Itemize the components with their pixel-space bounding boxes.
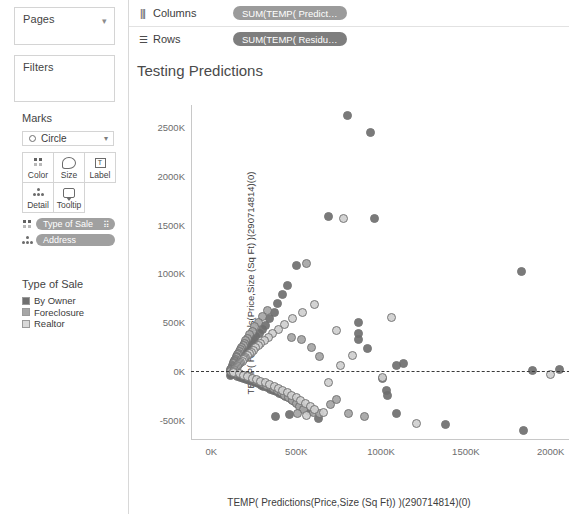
data-point[interactable]: [360, 412, 369, 421]
left-panel: Pages ▾ Filters Marks Circle ▾ Color: [0, 0, 129, 514]
columns-shelf-label: Columns: [153, 7, 207, 19]
data-point[interactable]: [324, 212, 333, 221]
x-tick-label: 0K: [206, 446, 218, 457]
data-point[interactable]: [324, 378, 333, 387]
marks-detail-label: Detail: [27, 200, 49, 210]
data-point[interactable]: [378, 373, 387, 382]
legend-item[interactable]: Foreclosure: [22, 307, 84, 319]
marks-pill-address[interactable]: Address: [22, 234, 115, 246]
page-title: Testing Predictions: [137, 62, 263, 79]
data-point[interactable]: [332, 395, 341, 404]
data-point[interactable]: [273, 299, 282, 308]
x-axis-label: TEMP( Predictions(Price,Size (Sq Ft)) )(…: [129, 497, 569, 508]
columns-shelf[interactable]: ||| Columns SUM(TEMP( Predict…: [129, 0, 569, 27]
data-point[interactable]: [348, 351, 357, 360]
data-point[interactable]: [441, 420, 450, 429]
data-point[interactable]: [288, 314, 297, 323]
data-point[interactable]: [298, 308, 307, 317]
marks-card-title: Marks: [22, 112, 52, 124]
marks-label-label: Label: [90, 170, 111, 180]
data-point[interactable]: [293, 409, 302, 418]
filters-card-title: Filters: [23, 61, 54, 73]
data-point[interactable]: [310, 300, 319, 309]
y-tick-label: 1000K: [158, 268, 185, 279]
tableau-worksheet: Pages ▾ Filters Marks Circle ▾ Color: [0, 0, 569, 514]
data-point[interactable]: [354, 318, 363, 327]
pages-card[interactable]: Pages ▾: [14, 7, 115, 45]
data-point[interactable]: [370, 214, 379, 223]
data-point[interactable]: [278, 290, 287, 299]
legend-label: Realtor: [34, 318, 65, 329]
x-tick-label: 2000K: [537, 446, 564, 457]
pill-label[interactable]: Address: [36, 234, 115, 246]
marks-property-grid: Color Size T Label: [22, 152, 116, 213]
columns-icon: |||: [137, 8, 148, 19]
data-point[interactable]: [287, 333, 296, 342]
data-point[interactable]: [302, 411, 311, 420]
data-point[interactable]: [315, 352, 324, 361]
y-tick-label: 2500K: [158, 121, 185, 132]
marks-detail-button[interactable]: Detail: [22, 182, 54, 213]
legend-label: Foreclosure: [34, 307, 84, 318]
data-point[interactable]: [366, 128, 375, 137]
x-tick-label: 1500K: [452, 446, 479, 457]
data-point[interactable]: [517, 267, 526, 276]
data-point[interactable]: [319, 408, 328, 417]
data-point[interactable]: [343, 111, 352, 120]
legend-item[interactable]: Realtor: [22, 318, 84, 330]
mark-type-dropdown[interactable]: Circle ▾: [22, 131, 114, 146]
color-icon: [22, 220, 33, 229]
legend-swatch: [22, 297, 30, 305]
size-icon: [62, 155, 76, 170]
marks-color-label: Color: [28, 170, 48, 180]
detail-icon: [33, 185, 44, 200]
chevron-down-icon[interactable]: ▾: [104, 135, 108, 143]
data-point[interactable]: [271, 412, 280, 421]
legend-items: By Owner Foreclosure Realtor: [22, 295, 84, 330]
marks-tooltip-label: Tooltip: [57, 200, 82, 210]
data-point[interactable]: [392, 361, 401, 370]
marks-label-button[interactable]: T Label: [84, 152, 116, 183]
data-point[interactable]: [292, 261, 301, 270]
scatter-plot[interactable]: -500K0K500K1000K1500K2000K2500K 0K500K10…: [191, 105, 569, 440]
resize-icon[interactable]: ⠿: [103, 220, 110, 230]
y-tick-label: 500K: [163, 317, 185, 328]
data-point[interactable]: [307, 343, 316, 352]
data-point[interactable]: [387, 313, 396, 322]
data-point[interactable]: [412, 419, 421, 428]
x-tick-label: 500K: [285, 446, 307, 457]
label-icon: T: [95, 155, 106, 170]
data-point[interactable]: [383, 391, 392, 400]
marks-tooltip-button[interactable]: Tooltip: [53, 182, 85, 213]
marks-pill-type-of-sale[interactable]: Type of Sale ⠿: [22, 218, 115, 230]
data-point[interactable]: [519, 426, 528, 435]
data-point[interactable]: [302, 259, 311, 268]
shelf-pill-columns[interactable]: SUM(TEMP( Predict…: [233, 6, 347, 20]
rows-shelf[interactable]: ☰ Rows SUM(TEMP( Residu…: [129, 26, 569, 53]
filters-card[interactable]: Filters: [14, 55, 115, 102]
legend-title: Type of Sale: [22, 278, 83, 290]
chevron-down-icon[interactable]: ▾: [102, 17, 107, 26]
data-point[interactable]: [344, 409, 353, 418]
marks-color-button[interactable]: Color: [22, 152, 54, 183]
legend-item[interactable]: By Owner: [22, 295, 84, 307]
marks-size-button[interactable]: Size: [53, 152, 85, 183]
x-axis-line: [191, 439, 569, 440]
pill-text: Address: [43, 235, 76, 245]
data-point[interactable]: [339, 214, 348, 223]
data-point[interactable]: [555, 365, 564, 374]
detail-icon: [22, 236, 33, 245]
data-point[interactable]: [332, 326, 341, 335]
chart-area: Testing Predictions TEMP( Residuals(Pric…: [129, 52, 569, 514]
reference-line-zero: [191, 371, 569, 372]
pill-label[interactable]: Type of Sale ⠿: [36, 218, 115, 230]
data-point[interactable]: [392, 409, 401, 418]
data-point[interactable]: [297, 335, 306, 344]
legend-swatch: [22, 320, 30, 328]
data-point[interactable]: [283, 281, 292, 290]
pill-text: Type of Sale: [43, 219, 93, 229]
pages-card-title: Pages: [23, 13, 55, 25]
shelf-pill-rows[interactable]: SUM(TEMP( Residu…: [233, 32, 347, 46]
data-point[interactable]: [336, 361, 345, 370]
data-point[interactable]: [363, 344, 372, 353]
